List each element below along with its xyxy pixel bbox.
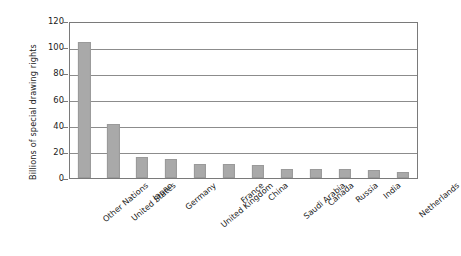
bar[interactable] [194, 164, 206, 178]
y-axis-tick-label: 100 [22, 43, 64, 52]
x-axis-label-slot: Japan [128, 181, 157, 255]
y-axis-tick-label: 0 [22, 174, 64, 183]
y-axis-tick [63, 74, 68, 75]
bar[interactable] [165, 159, 177, 178]
bar-slot [244, 23, 273, 178]
x-axis-label-slot: Netherlands [388, 181, 417, 255]
bar-series [70, 23, 417, 178]
bar-slot [186, 23, 215, 178]
y-axis-tick-label: 80 [22, 69, 64, 78]
bar-slot [359, 23, 388, 178]
bar[interactable] [339, 169, 351, 178]
x-axis-label-slot: United States [99, 181, 128, 255]
y-axis-tick-label: 60 [22, 96, 64, 105]
bar-slot [388, 23, 417, 178]
y-axis-tick [63, 48, 68, 49]
y-axis-tick-label: 20 [22, 148, 64, 157]
x-axis-label-slot: Canada [301, 181, 330, 255]
y-axis-tick-label: 40 [22, 122, 64, 131]
bar[interactable] [78, 42, 90, 178]
x-axis-label-slot: Russia [330, 181, 359, 255]
bar-slot [272, 23, 301, 178]
x-axis-label-slot: China [244, 181, 273, 255]
x-axis-labels: Other NationsUnited StatesJapanGermanyUn… [70, 181, 417, 255]
y-axis-tick [63, 153, 68, 154]
x-axis-label-slot: Saudi Arabia [272, 181, 301, 255]
x-axis-label-slot: Germany [157, 181, 186, 255]
bar[interactable] [368, 170, 380, 178]
x-axis-label-slot: United Kingdom [186, 181, 215, 255]
bar[interactable] [107, 124, 119, 178]
y-axis-tick [63, 101, 68, 102]
y-axis-tick [63, 179, 68, 180]
bar-slot [301, 23, 330, 178]
bar[interactable] [396, 172, 408, 178]
x-axis-label-slot: France [215, 181, 244, 255]
bar[interactable] [136, 157, 148, 178]
x-axis-label-slot: Other Nations [70, 181, 99, 255]
bar[interactable] [223, 164, 235, 178]
y-axis-tick [63, 127, 68, 128]
bar-slot [215, 23, 244, 178]
bar[interactable] [310, 169, 322, 178]
y-axis-tick [63, 22, 68, 23]
bar-slot [330, 23, 359, 178]
y-axis-tick-label: 120 [22, 17, 64, 26]
bar[interactable] [252, 165, 264, 178]
y-axis-labels: 020406080100120 [16, 0, 64, 256]
bar-slot [128, 23, 157, 178]
bar-slot [157, 23, 186, 178]
bar-slot [70, 23, 99, 178]
x-axis-label-slot: India [359, 181, 388, 255]
bar[interactable] [281, 169, 293, 178]
bar-slot [99, 23, 128, 178]
x-axis-tick-label: Netherlands [418, 181, 461, 220]
